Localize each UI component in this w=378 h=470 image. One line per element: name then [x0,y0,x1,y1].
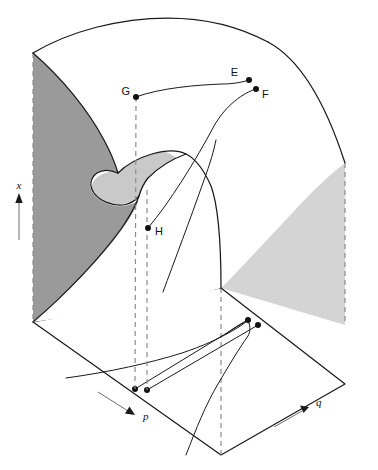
point-G-marker [133,94,139,100]
point-E-label: E [231,66,238,78]
base-point-F-projection [255,322,261,328]
x-axis-group: x [15,179,22,240]
cusp-catastrophe-diagram: E F G H x p q [0,0,378,470]
point-F-marker [253,86,259,92]
q-axis-label: q [316,396,322,408]
point-E-marker [246,77,252,83]
point-F-label: F [262,88,269,100]
point-H-label: H [155,225,163,237]
point-H-marker [145,225,151,231]
p-axis-arrowhead [125,407,135,416]
x-axis-label: x [16,179,22,191]
base-point-E-projection [245,317,251,323]
figure-root: E F G H x p q [0,0,378,470]
p-axis-shaft [98,392,128,411]
p-axis-label: p [142,410,149,422]
x-axis-arrowhead [15,193,22,203]
point-G-label: G [121,85,130,97]
